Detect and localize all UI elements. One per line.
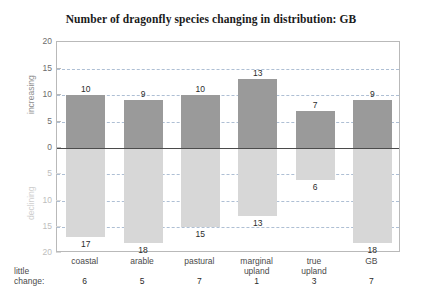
y-axis-tick-mark	[56, 68, 61, 69]
label-increasing: increasing	[26, 75, 36, 114]
bar-value-increasing: 10	[56, 84, 115, 94]
y-axis-tick-mark	[56, 252, 61, 253]
plot-inner: 10179181015131376918	[57, 42, 399, 251]
gridline	[57, 201, 399, 202]
page-title: Number of dragonfly species changing in …	[0, 13, 422, 25]
bar-increasing	[353, 100, 392, 148]
y-axis-tick-label: 5	[32, 169, 52, 178]
zero-axis-line	[57, 148, 399, 149]
little-change-value: 7	[351, 276, 391, 286]
bar-value-declining: 18	[114, 245, 173, 255]
label-declining: declining	[26, 186, 36, 220]
y-axis-tick-label: 20	[32, 248, 52, 257]
bar-increasing	[181, 95, 220, 148]
bar-value-increasing: 9	[343, 89, 402, 99]
y-axis-tick-label: 0	[32, 143, 52, 152]
bar-value-declining: 13	[228, 218, 287, 228]
bar-declining	[238, 148, 277, 216]
bar-value-declining: 18	[343, 245, 402, 255]
bar-value-declining: 17	[56, 239, 115, 249]
chart-figure: Number of dragonfly species changing in …	[0, 0, 422, 300]
bar-value-increasing: 7	[286, 100, 345, 110]
x-axis-category-label: GB	[337, 256, 405, 266]
bar-declining	[66, 148, 105, 237]
y-axis-tick-label: 15	[32, 64, 52, 73]
bar-value-declining: 6	[286, 182, 345, 192]
y-axis-tick-label: 5	[32, 117, 52, 126]
bar-declining	[124, 148, 163, 243]
little-change-value: 1	[237, 276, 277, 286]
little-change-value: 6	[65, 276, 105, 286]
y-axis-tick-mark	[56, 121, 61, 122]
bar-increasing	[296, 111, 335, 148]
y-axis-tick-mark	[56, 200, 61, 201]
bar-increasing	[66, 95, 105, 148]
y-axis-tick-mark	[56, 226, 61, 227]
little-change-value: 3	[294, 276, 334, 286]
bar-declining	[296, 148, 335, 180]
y-axis-tick-label: 15	[32, 222, 52, 231]
bar-value-increasing: 9	[114, 89, 173, 99]
bar-value-increasing: 13	[228, 68, 287, 78]
bar-declining	[353, 148, 392, 243]
bar-declining	[181, 148, 220, 227]
gridline	[57, 174, 399, 175]
little-change-value: 5	[122, 276, 162, 286]
gridline	[57, 122, 399, 123]
little-change-label-line1: little	[14, 266, 56, 276]
bar-increasing	[124, 100, 163, 148]
bar-increasing	[238, 79, 277, 148]
little-change-label-line2: change:	[14, 276, 56, 286]
y-axis-tick-mark	[56, 173, 61, 174]
bar-value-declining: 15	[171, 229, 230, 239]
bar-value-increasing: 10	[171, 84, 230, 94]
little-change-label: little change:	[14, 266, 56, 286]
y-axis-tick-mark	[56, 94, 61, 95]
little-change-value: 7	[179, 276, 219, 286]
y-axis-tick-mark	[56, 41, 61, 42]
plot-area: 10179181015131376918	[56, 41, 400, 252]
y-axis-tick-label: 20	[32, 37, 52, 46]
